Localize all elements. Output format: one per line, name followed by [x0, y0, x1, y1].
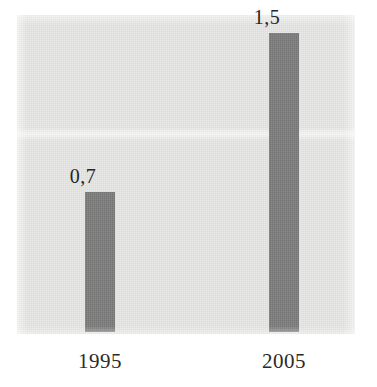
- value-label-2005: 1,5: [237, 7, 297, 27]
- scan-light-band: [17, 127, 355, 141]
- bar-chart-figure: 0,7 1,5 1995 2005: [0, 0, 377, 387]
- category-label-1995: 1995: [45, 349, 155, 373]
- category-label-2005: 2005: [229, 349, 339, 373]
- bar-1995: [85, 192, 115, 332]
- bar-2005: [269, 33, 299, 332]
- value-label-1995: 0,7: [53, 166, 113, 186]
